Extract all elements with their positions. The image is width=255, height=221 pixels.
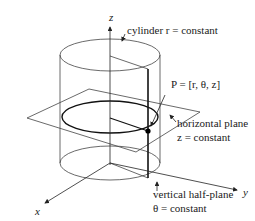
y-axis-label: y <box>243 187 248 198</box>
vertical-plane-label: vertical half-plane <box>153 189 233 200</box>
vertical-plane-equation: θ = constant <box>153 203 207 214</box>
vertical-half-plane <box>110 56 148 178</box>
y-axis <box>110 163 237 190</box>
z-axis-label: z <box>109 12 113 23</box>
point-label: P = [r, θ, z] <box>171 79 220 90</box>
cylinder-label: cylinder r = constant <box>127 25 218 36</box>
horizontal-plane <box>27 89 200 152</box>
x-axis <box>45 163 110 203</box>
point-p <box>145 128 150 133</box>
horizontal-plane-equation: z = constant <box>177 132 230 143</box>
x-axis-label: x <box>35 206 40 217</box>
horizontal-plane-label: horizontal plane <box>177 118 248 129</box>
radius-line <box>110 118 148 131</box>
horizontal-plane-leader <box>170 115 176 122</box>
